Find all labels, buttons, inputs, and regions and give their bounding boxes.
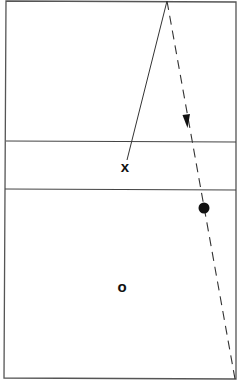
filled-dot-marker [199,203,210,214]
o-marker-label: o [117,278,126,295]
court-diagram: x o [0,0,239,386]
x-marker-label: x [121,158,130,175]
background [0,0,239,386]
